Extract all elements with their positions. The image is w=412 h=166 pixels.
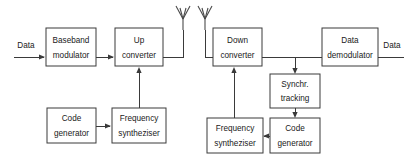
block-tx-frequency-syntheziser-line2: syntheziser xyxy=(118,129,160,138)
block-rx-code-generator-line1: Code xyxy=(285,124,305,133)
block-synchr-tracking-line2: tracking xyxy=(281,94,310,103)
block-rx-frequency-syntheziser-line2: syntheziser xyxy=(214,139,256,148)
block-tx-code-generator-line2: generator xyxy=(54,129,89,138)
block-baseband-modulator-line2: modulator xyxy=(53,51,90,60)
block-data-demodulator-line1: Data xyxy=(341,36,359,45)
block-up-converter[interactable]: Up converter xyxy=(115,28,163,66)
wire-tx-frequency-syntheziser-to-up-converter xyxy=(136,67,141,108)
wire-up-converter-to-transmit-antenna xyxy=(163,30,183,57)
block-rx-code-generator[interactable]: Code generator xyxy=(270,118,320,153)
block-synchr-tracking[interactable]: Synchr. tracking xyxy=(270,74,320,108)
block-tx-frequency-syntheziser-line1: Frequency xyxy=(120,114,160,123)
wire-rx-frequency-syntheziser-to-down-converter xyxy=(231,67,236,118)
block-tx-code-generator[interactable]: Code generator xyxy=(47,108,96,143)
block-baseband-modulator-line1: Baseband xyxy=(53,36,90,45)
block-down-converter[interactable]: Down converter xyxy=(213,28,262,66)
wire-rx-code-generator-to-rx-frequency-syntheziser xyxy=(263,133,270,138)
block-data-demodulator[interactable]: Data demodulator xyxy=(322,28,378,66)
block-up-converter-line1: Up xyxy=(134,36,145,45)
block-up-converter-line2: converter xyxy=(122,51,156,60)
wire-rx-line-to-synchr-tracking xyxy=(292,57,297,74)
block-synchr-tracking-line1: Synchr. xyxy=(281,80,308,89)
wire-synchr-tracking-to-rx-code-generator xyxy=(292,108,297,118)
block-data-demodulator-line2: demodulator xyxy=(327,51,373,60)
block-baseband-modulator[interactable]: Baseband modulator xyxy=(46,28,96,66)
block-diagram: Baseband modulator Up converter Down con… xyxy=(0,0,412,166)
block-down-converter-line1: Down xyxy=(227,36,248,45)
block-rx-frequency-syntheziser[interactable]: Frequency syntheziser xyxy=(207,118,263,153)
block-down-converter-line2: converter xyxy=(220,51,254,60)
wire-tx-code-generator-to-tx-frequency-syntheziser xyxy=(96,123,111,128)
block-rx-code-generator-line2: generator xyxy=(277,139,312,148)
wire-receive-antenna-to-down-converter xyxy=(205,30,213,57)
block-tx-code-generator-line1: Code xyxy=(62,114,82,123)
data-input-label: Data xyxy=(17,41,35,50)
diagram-canvas: Baseband modulator Up converter Down con… xyxy=(0,0,412,166)
block-tx-frequency-syntheziser[interactable]: Frequency syntheziser xyxy=(112,108,166,143)
block-rx-frequency-syntheziser-line1: Frequency xyxy=(216,124,256,133)
receive-antenna-icon xyxy=(198,6,212,30)
wire-baseband-modulator-to-up-converter xyxy=(96,54,114,59)
wire-data-in-to-baseband-modulator xyxy=(14,54,45,59)
transmit-antenna-icon xyxy=(176,6,190,30)
data-output-label: Data xyxy=(383,41,401,50)
